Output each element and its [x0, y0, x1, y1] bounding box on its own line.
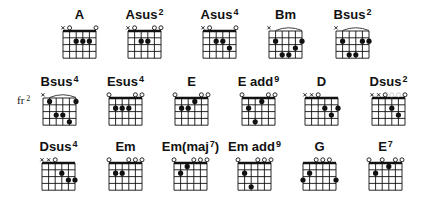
fretboard-grid — [263, 19, 308, 64]
fretboard-grid — [330, 19, 375, 64]
chord-name-superscript: 9 — [276, 139, 281, 149]
fretboard-grid — [169, 86, 214, 131]
barre-arc — [50, 95, 76, 98]
fretboard-grid — [57, 19, 102, 64]
fretboard-grid — [36, 151, 81, 196]
chord-name-superscript: 4 — [73, 74, 78, 84]
chord-name-superscript: 2 — [366, 7, 371, 17]
chord-name-suffix: ) — [215, 139, 219, 154]
fretboard-grid — [236, 86, 281, 131]
fretboard-grid — [297, 151, 342, 196]
fretboard-grid — [168, 151, 213, 196]
barre-arc — [276, 28, 302, 31]
barre-arc — [343, 28, 369, 31]
fretboard-grid — [103, 151, 148, 196]
fretboard-grid — [122, 19, 167, 64]
fretboard-grid — [103, 86, 148, 131]
fretboard-grid — [299, 86, 344, 131]
fretboard-grid — [366, 86, 411, 131]
chord-name-superscript: 4 — [72, 139, 77, 149]
chord-name-superscript: 7 — [388, 139, 393, 149]
chord-name-superscript: 2 — [402, 74, 407, 84]
fretboard-grid — [37, 86, 82, 131]
chord-name-superscript: 9 — [274, 74, 279, 84]
fretboard-grid — [363, 151, 408, 196]
fret-label-number: 2 — [24, 94, 30, 103]
fretboard-grid — [232, 151, 277, 196]
chord-name-superscript: 4 — [233, 7, 238, 17]
chord-name-superscript: 7 — [210, 139, 215, 149]
fretboard-grid — [197, 19, 242, 64]
fret-position-label: fr 2 — [17, 94, 30, 106]
chord-name-superscript: 2 — [158, 7, 163, 17]
chord-name-superscript: 4 — [139, 74, 144, 84]
